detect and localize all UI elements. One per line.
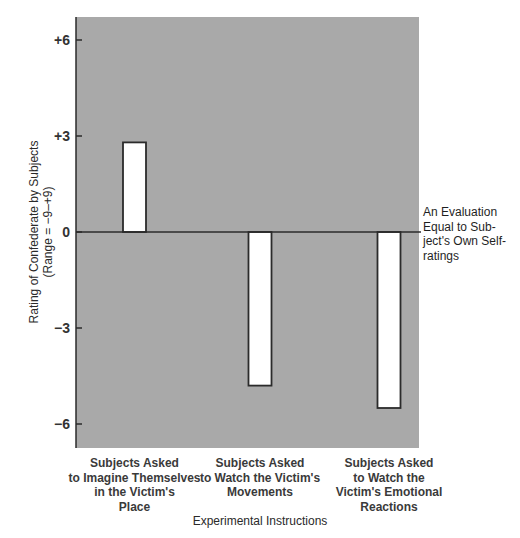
y-tick-label: 0 <box>62 224 70 240</box>
y-axis-title-line: Rating of Confederate by Subjects <box>27 141 41 324</box>
y-tick-label: +6 <box>54 32 70 48</box>
category-label: Subjects Askedto Watch the Victim'sMovem… <box>200 456 321 499</box>
annotation-line: An Evaluation <box>423 205 497 219</box>
category-labels: Subjects Askedto Imagine Themselvesin th… <box>68 456 442 514</box>
x-axis-title: Experimental Instructions <box>193 514 328 528</box>
bar-2 <box>249 232 272 386</box>
y-tick-label: −3 <box>54 320 70 336</box>
y-tick-label: +3 <box>54 128 70 144</box>
reference-line-annotation: An EvaluationEqual to Sub-ject's Own Sel… <box>422 205 506 263</box>
y-tick-label: −6 <box>54 416 70 432</box>
category-label: Subjects Askedto Watch theVictim's Emoti… <box>336 456 443 514</box>
y-axis-title-line: (Range = −9–+9) <box>41 186 55 277</box>
annotation-line: ratings <box>423 249 459 263</box>
bar-1 <box>123 142 146 232</box>
y-axis-title: Rating of Confederate by Subjects(Range … <box>27 141 55 324</box>
annotation-line: Equal to Sub- <box>423 220 496 234</box>
bar-3 <box>378 232 401 408</box>
annotation-line: ject's Own Self- <box>422 234 506 248</box>
chart: +6+30−3−6 Subjects Askedto Imagine Thems… <box>0 0 520 538</box>
category-label: Subjects Askedto Imagine Themselvesin th… <box>68 456 200 514</box>
